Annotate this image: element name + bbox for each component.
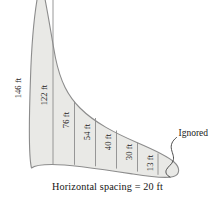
offset-label-40: 40 ft <box>103 133 113 150</box>
offset-label-76: 76 ft <box>61 111 71 128</box>
ignored-annotation-label: Ignored <box>179 128 209 138</box>
region-diagram: 146 ft 122 ft 76 ft 54 ft 40 ft 30 ft 13… <box>0 0 215 210</box>
offset-label-146: 146 ft <box>13 77 23 98</box>
offset-label-54: 54 ft <box>82 123 92 140</box>
offset-label-13: 13 ft <box>145 154 155 171</box>
irregular-area-figure: 146 ft 122 ft 76 ft 54 ft 40 ft 30 ft 13… <box>0 0 215 210</box>
horizontal-spacing-caption: Horizontal spacing = 20 ft <box>0 181 215 192</box>
offset-label-122: 122 ft <box>39 84 49 105</box>
offset-label-30: 30 ft <box>124 143 134 160</box>
